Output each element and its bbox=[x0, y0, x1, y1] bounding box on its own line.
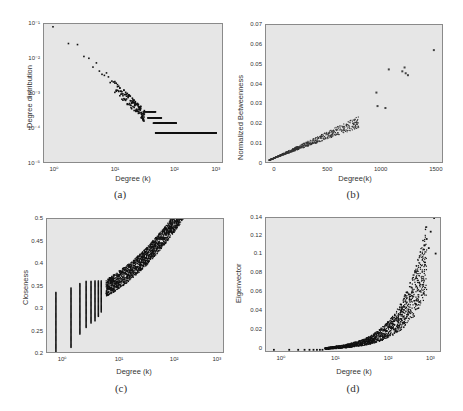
y-tick-d: 0.02 bbox=[240, 326, 262, 332]
x-axis-label-a: Degree (k) bbox=[113, 174, 153, 183]
x-tick-b: 1500 bbox=[424, 166, 448, 172]
y-tick-b: 0.04 bbox=[240, 81, 262, 87]
y-tick-a: 10⁻⁵ bbox=[18, 160, 40, 166]
y-tick-d: 0 bbox=[240, 345, 262, 351]
y-tick-c: 0.2 bbox=[21, 350, 43, 356]
x-tick-c: 10⁰ bbox=[50, 356, 74, 362]
caption-c: (c) bbox=[106, 382, 136, 394]
x-tick-c: 10² bbox=[162, 356, 186, 362]
x-tick-a: 10² bbox=[162, 166, 186, 172]
y-tick-b: 0.05 bbox=[240, 61, 262, 67]
x-tick-b: 1000 bbox=[369, 166, 393, 172]
y-tick-a: 10⁻² bbox=[18, 55, 40, 61]
y-tick-c: 0.4 bbox=[21, 260, 43, 266]
x-tick-d: 10¹ bbox=[323, 355, 347, 361]
plot-area-d bbox=[265, 217, 441, 352]
y-tick-a: 10⁻⁴ bbox=[18, 125, 40, 131]
x-axis-label-c: Degree (k) bbox=[114, 367, 154, 376]
y-tick-c: 0.3 bbox=[21, 305, 43, 311]
y-tick-b: 0.03 bbox=[240, 100, 262, 106]
caption-d: (d) bbox=[338, 382, 368, 394]
y-tick-d: 0.08 bbox=[240, 269, 262, 275]
plot-area-c bbox=[46, 218, 224, 353]
y-tick-a: 10⁻¹ bbox=[18, 20, 40, 26]
y-tick-c: 0.5 bbox=[21, 215, 43, 221]
y-tick-c: 0.25 bbox=[21, 328, 43, 334]
x-tick-b: 0 bbox=[262, 166, 286, 172]
y-axis-label-a: Degree distribution bbox=[25, 65, 34, 128]
y-tick-d: 0.1 bbox=[240, 250, 262, 256]
y-tick-c: 0.45 bbox=[21, 238, 43, 244]
x-tick-b: 500 bbox=[315, 166, 339, 172]
x-axis-label-d: Degree (k) bbox=[334, 367, 374, 376]
y-tick-a: 10⁻³ bbox=[18, 90, 40, 96]
x-tick-d: 10⁰ bbox=[269, 355, 293, 361]
y-tick-d: 0.14 bbox=[240, 214, 262, 220]
caption-b: (b) bbox=[338, 188, 368, 200]
x-tick-a: 10¹ bbox=[103, 166, 127, 172]
y-tick-c: 0.35 bbox=[21, 283, 43, 289]
y-tick-b: 0.06 bbox=[240, 41, 262, 47]
y-tick-b: 0 bbox=[240, 160, 262, 166]
y-tick-b: 0.07 bbox=[240, 21, 262, 27]
caption-a: (a) bbox=[105, 188, 135, 200]
x-tick-a: 10³ bbox=[204, 166, 228, 172]
x-tick-d: 10² bbox=[376, 355, 400, 361]
y-tick-d: 0.04 bbox=[240, 307, 262, 313]
x-tick-a: 10⁰ bbox=[42, 166, 66, 172]
x-axis-label-b: Degree(k) bbox=[335, 174, 375, 183]
y-tick-d: 0.06 bbox=[240, 288, 262, 294]
y-tick-b: 0.01 bbox=[240, 140, 262, 146]
x-tick-d: 10³ bbox=[418, 355, 442, 361]
x-tick-c: 10³ bbox=[205, 356, 229, 362]
y-tick-b: 0.02 bbox=[240, 120, 262, 126]
plot-area-a bbox=[43, 23, 223, 163]
y-axis-label-b: Normalized Betweenness bbox=[236, 75, 245, 160]
y-tick-d: 0.12 bbox=[240, 232, 262, 238]
plot-area-b bbox=[265, 24, 443, 163]
x-tick-c: 10¹ bbox=[107, 356, 131, 362]
